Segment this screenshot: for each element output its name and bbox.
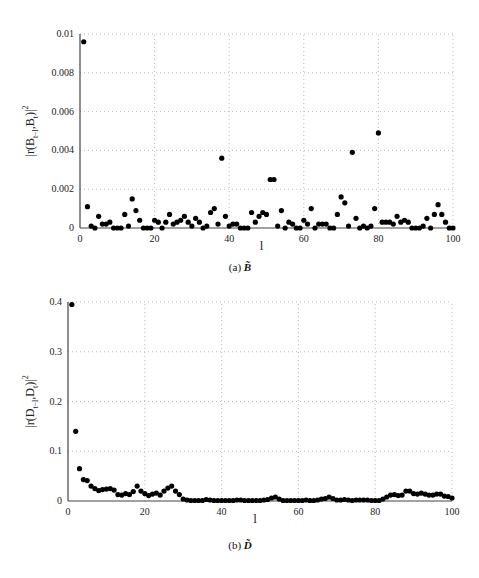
- y-tick-label: 0: [57, 495, 62, 506]
- data-point: [178, 218, 183, 223]
- data-point: [256, 214, 261, 219]
- data-point: [107, 220, 112, 225]
- data-point: [449, 495, 454, 500]
- y-axis-label: |r(Dt−l,Dt)|2: [21, 375, 40, 427]
- x-tick-label: 0: [66, 506, 71, 517]
- data-point: [167, 212, 172, 217]
- data-point: [69, 302, 74, 307]
- data-point: [435, 202, 440, 207]
- data-point: [73, 429, 78, 434]
- data-point: [131, 489, 136, 494]
- data-point: [350, 150, 355, 155]
- data-point: [137, 218, 142, 223]
- data-point: [215, 222, 220, 227]
- data-point: [428, 225, 433, 230]
- data-point: [208, 210, 213, 215]
- grid: [80, 34, 453, 228]
- data-point: [126, 223, 131, 228]
- data-point: [223, 214, 228, 219]
- data-point: [135, 483, 140, 488]
- data-point: [301, 218, 306, 223]
- data-point: [443, 220, 448, 225]
- data-points: [81, 39, 455, 230]
- y-tick-label: 0.1: [50, 445, 63, 456]
- data-point: [130, 196, 135, 201]
- data-point: [96, 214, 101, 219]
- data-point: [353, 216, 358, 221]
- data-point: [85, 204, 90, 209]
- data-point: [118, 225, 123, 230]
- data-point: [156, 220, 161, 225]
- caption-a-symbol: B̃: [244, 261, 251, 273]
- y-tick-label: 0.004: [52, 144, 75, 155]
- data-point: [331, 225, 336, 230]
- chart-d-tilde: 02040608010000.10.20.30.4l|r(Dt−l,Dt)|2: [21, 296, 460, 526]
- data-point: [346, 223, 351, 228]
- y-tick-label: 0.01: [57, 28, 75, 39]
- data-point: [368, 223, 373, 228]
- data-point: [406, 220, 411, 225]
- data-point: [204, 223, 209, 228]
- data-point: [279, 208, 284, 213]
- data-point: [197, 220, 202, 225]
- data-point: [77, 466, 82, 471]
- data-point: [376, 130, 381, 135]
- data-point: [189, 223, 194, 228]
- data-point: [424, 216, 429, 221]
- data-point: [324, 222, 329, 227]
- x-tick-label: 100: [445, 506, 460, 517]
- data-point: [158, 492, 163, 497]
- data-point: [219, 156, 224, 161]
- x-axis-label: l: [253, 511, 257, 526]
- data-point: [212, 206, 217, 211]
- data-point: [399, 492, 404, 497]
- data-point: [85, 478, 90, 483]
- data-point: [111, 487, 116, 492]
- data-point: [133, 208, 138, 213]
- y-tick-label: 0.3: [50, 346, 63, 357]
- data-point: [312, 225, 317, 230]
- x-tick-label: 100: [446, 233, 461, 244]
- caption-b-prefix: (b): [228, 539, 241, 551]
- x-tick-label: 40: [224, 233, 234, 244]
- y-tick-label: 0.4: [50, 296, 63, 307]
- data-point: [177, 492, 182, 497]
- caption-b-symbol: D̃: [244, 539, 252, 551]
- data-point: [148, 225, 153, 230]
- data-point: [271, 177, 276, 182]
- data-point: [391, 222, 396, 227]
- chart-b-tilde: 02040608010000.0020.0040.0060.0080.01l|r…: [21, 28, 461, 253]
- x-tick-label: 0: [78, 233, 83, 244]
- data-point: [122, 212, 127, 217]
- data-point: [169, 483, 174, 488]
- data-point: [432, 212, 437, 217]
- data-point: [305, 222, 310, 227]
- data-point: [290, 222, 295, 227]
- data-point: [394, 214, 399, 219]
- data-point: [297, 225, 302, 230]
- data-point: [81, 39, 86, 44]
- data-point: [253, 220, 258, 225]
- data-point: [439, 212, 444, 217]
- data-point: [182, 214, 187, 219]
- y-tick-label: 0.002: [52, 183, 75, 194]
- data-point: [335, 212, 340, 217]
- x-tick-label: 80: [373, 233, 383, 244]
- x-tick-label: 20: [150, 233, 160, 244]
- caption-b: (b) D̃: [180, 539, 300, 551]
- x-tick-label: 20: [140, 506, 150, 517]
- y-tick-label: 0.2: [50, 396, 63, 407]
- data-point: [234, 222, 239, 227]
- y-tick-label: 0.008: [52, 67, 75, 78]
- data-point: [342, 200, 347, 205]
- data-point: [92, 225, 97, 230]
- data-point: [245, 225, 250, 230]
- x-tick-label: 40: [217, 506, 227, 517]
- x-tick-label: 60: [293, 506, 303, 517]
- data-point: [186, 220, 191, 225]
- x-axis-label: l: [260, 238, 264, 253]
- data-points: [69, 302, 454, 503]
- data-point: [372, 206, 377, 211]
- caption-a: (a) B̃: [180, 261, 300, 273]
- data-point: [421, 223, 426, 228]
